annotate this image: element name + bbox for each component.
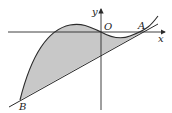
shaded-region — [20, 24, 146, 100]
y-axis-label: y — [91, 6, 98, 17]
point-a-label: A — [137, 20, 145, 31]
point-b-label: B — [18, 101, 26, 112]
origin-label: O — [104, 21, 112, 32]
x-axis-label: x — [158, 33, 164, 44]
figure: y O A x B — [0, 0, 172, 113]
